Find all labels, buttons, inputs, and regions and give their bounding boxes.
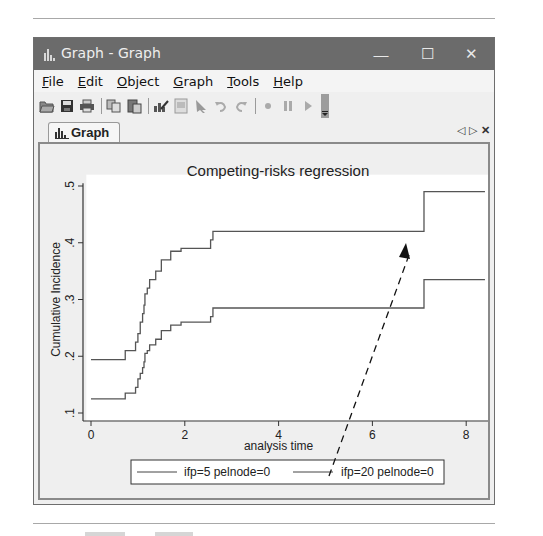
print-icon <box>79 99 95 113</box>
paste-icon <box>126 98 142 114</box>
pause-icon <box>283 100 293 112</box>
title-bar[interactable]: Graph - Graph — ☐ ✕ <box>34 38 494 70</box>
menu-file[interactable]: File <box>42 74 64 89</box>
save-button[interactable] <box>58 97 76 115</box>
minimize-icon: — <box>374 46 389 63</box>
y-tick-label: .2 <box>63 351 77 361</box>
close-icon: ✕ <box>465 45 478 63</box>
redo-button[interactable] <box>232 97 250 115</box>
tab-next-icon[interactable]: ▷ <box>469 124 477 137</box>
toolbar-separator <box>148 98 149 114</box>
save-icon <box>60 99 74 113</box>
toolbar-separator <box>255 98 256 114</box>
properties-button[interactable] <box>172 97 190 115</box>
bottom-divider <box>33 523 495 524</box>
plot-region <box>86 175 488 422</box>
window-title: Graph - Graph <box>61 45 161 61</box>
legend-label-2: ifp=20 pelnode=0 <box>341 465 434 479</box>
menu-tools-label: ools <box>233 74 259 89</box>
menu-edit[interactable]: Edit <box>78 74 103 89</box>
menu-help[interactable]: Help <box>273 74 303 89</box>
tab-graph-label: Graph <box>71 125 109 140</box>
graph-tab-icon <box>55 127 69 139</box>
y-tick-label: .5 <box>63 181 77 191</box>
toolbar <box>38 93 388 119</box>
menu-graph-accel: G <box>173 74 183 89</box>
menu-graph[interactable]: Graph <box>173 74 213 89</box>
x-axis-label: analysis time <box>244 439 314 453</box>
tab-prev-icon[interactable]: ◁ <box>457 124 465 137</box>
copy-button[interactable] <box>105 97 123 115</box>
y-tick-label: .3 <box>63 294 77 304</box>
paste-button[interactable] <box>125 97 143 115</box>
menu-edit-accel: E <box>78 74 86 89</box>
tab-navigation: ◁ ▷ ✕ <box>457 124 490 137</box>
pointer-button[interactable] <box>192 97 210 115</box>
undo-icon <box>214 99 228 113</box>
toolbar-separator <box>101 98 102 114</box>
graph-window: Graph - Graph — ☐ ✕ File Edit Object Gra… <box>33 37 495 505</box>
y-tick-label: .1 <box>63 408 77 418</box>
stata-graph-app-icon <box>43 47 57 61</box>
x-tick-label: 8 <box>463 428 470 442</box>
toolbar-overflow-button[interactable] <box>321 94 329 118</box>
legend-label-1: ifp=5 pelnode=0 <box>184 465 270 479</box>
pointer-icon <box>193 98 209 114</box>
minimize-button[interactable]: — <box>358 38 404 70</box>
menu-bar: File Edit Object Graph Tools Help <box>34 70 494 92</box>
x-tick-label: 2 <box>181 428 188 442</box>
chevron-down-icon <box>322 111 328 116</box>
tab-graph[interactable]: Graph <box>48 122 120 142</box>
open-button[interactable] <box>38 97 56 115</box>
open-icon <box>39 99 55 113</box>
undo-button[interactable] <box>212 97 230 115</box>
record-icon <box>263 101 273 111</box>
print-button[interactable] <box>78 97 96 115</box>
menu-object-accel: O <box>117 74 127 89</box>
copy-icon <box>106 99 122 113</box>
menu-help-label: elp <box>283 74 303 89</box>
graph-pane[interactable]: Competing-risks regression.1.2.3.4.50246… <box>38 142 490 500</box>
properties-icon <box>174 98 188 114</box>
graph-editor-button[interactable] <box>152 97 170 115</box>
play-icon <box>303 100 313 112</box>
graph-editor-icon <box>153 99 169 113</box>
top-divider <box>33 18 495 19</box>
menu-help-accel: H <box>273 74 283 89</box>
menu-edit-label: dit <box>86 74 103 89</box>
tab-close-icon[interactable]: ✕ <box>481 124 490 137</box>
menu-object[interactable]: Object <box>117 74 159 89</box>
cropped-element <box>85 532 125 536</box>
cropped-element <box>155 532 193 536</box>
x-tick-label: 0 <box>88 428 95 442</box>
menu-file-label: ile <box>49 74 64 89</box>
competing-risks-chart: Competing-risks regression.1.2.3.4.50246… <box>40 144 488 498</box>
y-axis-label: Cumulative Incidence <box>49 242 63 357</box>
maximize-button[interactable]: ☐ <box>404 38 450 70</box>
menu-tools[interactable]: Tools <box>227 74 259 89</box>
menu-graph-label: raph <box>183 74 213 89</box>
play-button[interactable] <box>299 97 317 115</box>
maximize-icon: ☐ <box>421 45 434 63</box>
x-tick-label: 6 <box>369 428 376 442</box>
close-button[interactable]: ✕ <box>448 38 494 70</box>
y-tick-label: .4 <box>63 237 77 247</box>
record-button[interactable] <box>259 97 277 115</box>
menu-object-label: bject <box>127 74 159 89</box>
pause-button[interactable] <box>279 97 297 115</box>
redo-icon <box>234 99 248 113</box>
chart-title: Competing-risks regression <box>187 162 370 179</box>
tab-strip: Graph ◁ ▷ ✕ <box>34 120 494 142</box>
